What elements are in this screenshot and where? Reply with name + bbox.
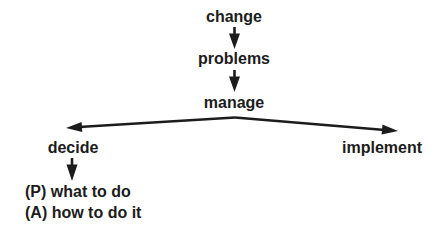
node-change: change bbox=[206, 8, 262, 26]
node-manage: manage bbox=[204, 94, 264, 112]
node-implement: implement bbox=[342, 139, 422, 157]
note-plan-line: (P) what to do bbox=[25, 183, 131, 201]
arrow-change-to-problems-icon bbox=[229, 27, 240, 49]
note-action-line: (A) how to do it bbox=[25, 204, 141, 222]
node-decide: decide bbox=[48, 139, 99, 157]
arrow-decide-to-notes-icon bbox=[67, 158, 78, 181]
diagram-canvas: change problems manage decide implement … bbox=[0, 0, 438, 242]
arrow-manage-to-implement-icon bbox=[235, 118, 398, 135]
arrow-manage-to-decide-icon bbox=[66, 118, 235, 132]
arrow-problems-to-manage-icon bbox=[229, 70, 240, 92]
node-problems: problems bbox=[198, 50, 270, 68]
